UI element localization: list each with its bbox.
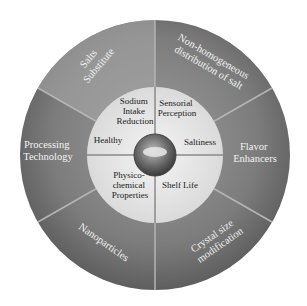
inner-label-saltiness: Saltiness <box>184 137 216 147</box>
outer-label-processing-technology: Processing Technology <box>23 139 73 162</box>
salt-pile-highlight <box>143 147 167 157</box>
salt-reduction-wheel-diagram: Salts Substitute Non-homogeneous distrib… <box>0 0 307 306</box>
inner-label-physicochemical-properties: Physico- chemical Properties <box>112 170 149 200</box>
inner-label-shelf-life: Shelf Life <box>162 180 198 190</box>
inner-label-sensorial-perception: Sensorial Perception <box>158 98 197 118</box>
inner-label-healthy: Healthy <box>94 135 123 145</box>
